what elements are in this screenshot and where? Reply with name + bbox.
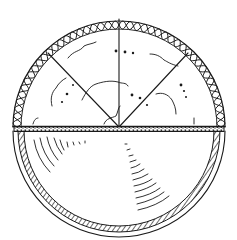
arc-marks-right [125,144,169,210]
rib-left [48,53,119,127]
bowl-inner-ring [24,131,214,226]
bowl-middle-ring [18,131,220,232]
diagram-canvas [0,0,237,240]
bowl-outer-ring [13,131,225,237]
dome [13,19,225,127]
cracks [33,42,194,124]
arc-marks-left [34,137,85,172]
bowl-hatched-rim [18,131,220,232]
diagram-figure: Hemispherical dome and bowl cross-sectio… [0,0,237,240]
bowl [13,131,225,237]
rib-right [119,53,188,127]
dots [61,50,187,107]
stippled-band [13,127,225,132]
